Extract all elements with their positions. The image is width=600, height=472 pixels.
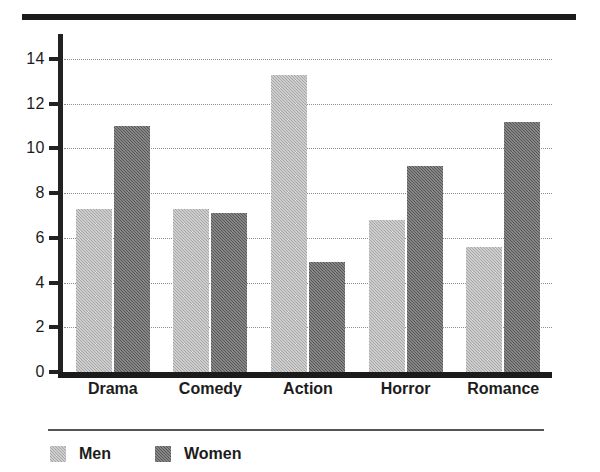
- bar-action-men: [271, 75, 307, 372]
- chart-legend: MenWomen: [50, 442, 285, 466]
- y-tick-label: 0: [36, 363, 45, 381]
- x-label-drama: Drama: [88, 380, 138, 398]
- bar-chart-figure: 02468101214 DramaComedyActionHorrorRoman…: [0, 28, 600, 472]
- y-tick-label: 10: [26, 139, 45, 157]
- x-label-romance: Romance: [467, 380, 539, 398]
- legend-divider-rule: [48, 429, 544, 431]
- legend-swatch-women: [155, 446, 171, 462]
- legend-item-women[interactable]: Women: [155, 445, 241, 463]
- y-tick-label: 12: [26, 95, 45, 113]
- x-axis-category-labels: DramaComedyActionHorrorRomance: [64, 380, 552, 410]
- y-tick-label: 8: [36, 184, 45, 202]
- x-label-comedy: Comedy: [179, 380, 242, 398]
- y-tick-label: 6: [36, 229, 45, 247]
- x-label-action: Action: [283, 380, 333, 398]
- bar-romance-women: [504, 122, 540, 372]
- bar-drama-men: [76, 209, 112, 372]
- y-tick-label: 4: [36, 274, 45, 292]
- y-tick-mark: [49, 236, 59, 240]
- y-tick-label: 14: [26, 50, 45, 68]
- bar-romance-men: [466, 247, 502, 372]
- top-divider-rule: [22, 14, 576, 20]
- y-tick-label: 2: [36, 318, 45, 336]
- bar-horror-men: [369, 220, 405, 372]
- y-tick-mark: [49, 146, 59, 150]
- bar-comedy-women: [211, 213, 247, 372]
- legend-label-men: Men: [79, 445, 111, 463]
- y-tick-mark: [49, 102, 59, 106]
- y-tick-mark: [49, 191, 59, 195]
- bar-action-women: [309, 262, 345, 372]
- y-tick-mark: [49, 281, 59, 285]
- x-axis-baseline: [58, 372, 552, 378]
- legend-item-men[interactable]: Men: [50, 445, 111, 463]
- bars-layer: [64, 34, 552, 372]
- chart-page: 02468101214 DramaComedyActionHorrorRoman…: [0, 0, 600, 472]
- legend-swatch-men: [50, 446, 66, 462]
- plot-area: 02468101214: [58, 34, 552, 379]
- x-label-horror: Horror: [381, 380, 431, 398]
- y-tick-mark: [49, 325, 59, 329]
- legend-label-women: Women: [184, 445, 241, 463]
- bar-drama-women: [114, 126, 150, 372]
- bar-comedy-men: [173, 209, 209, 372]
- y-tick-mark: [49, 370, 59, 374]
- y-tick-mark: [49, 57, 59, 61]
- bar-horror-women: [407, 166, 443, 372]
